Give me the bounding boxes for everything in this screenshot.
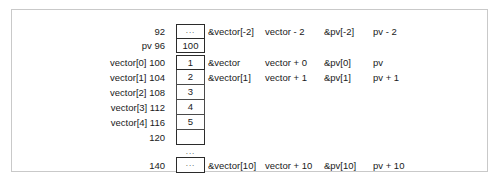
memory-cell-108: 3	[176, 85, 205, 100]
cell-value-116: 5	[188, 117, 193, 127]
expr-vector-address-140: &vector[10]	[208, 160, 256, 171]
expr-pv-address-104: &pv[1]	[324, 72, 351, 83]
cell-value-140: ...	[186, 160, 196, 168]
memory-cell-92: ...	[176, 24, 205, 39]
cell-value-112: 4	[188, 102, 193, 112]
expr-pv-pointer-92: pv - 2	[373, 26, 397, 37]
memory-cell-96: 100	[176, 38, 205, 53]
address-label-140: 140	[149, 160, 165, 171]
memory-gap-ellipsis: ...	[176, 147, 205, 156]
expr-pv-address-92: &pv[-2]	[324, 26, 354, 37]
cell-value-104: 2	[188, 72, 193, 82]
expr-vector-pointer-100: vector + 0	[265, 57, 307, 68]
expr-pv-address-100: &pv[0]	[324, 57, 351, 68]
address-label-pv-96: pv 96	[142, 40, 165, 51]
expr-vector-address-92: &vector[-2]	[208, 26, 254, 37]
expr-vector-address-100: &vector	[208, 57, 240, 68]
memory-cell-120	[176, 130, 205, 145]
address-label-vector4-116: vector[4] 116	[111, 117, 165, 128]
address-label-120: 120	[149, 132, 165, 143]
expr-vector-pointer-92: vector - 2	[265, 26, 305, 37]
address-label-vector3-112: vector[3] 112	[111, 102, 165, 113]
expr-pv-pointer-104: pv + 1	[373, 72, 399, 83]
cell-value-108: 3	[188, 87, 193, 97]
cell-value-92: ...	[186, 27, 196, 35]
address-label-vector2-108: vector[2] 108	[110, 87, 165, 98]
expr-vector-pointer-104: vector + 1	[265, 72, 307, 83]
memory-cell-112: 4	[176, 100, 205, 115]
expr-vector-address-104: &vector[1]	[208, 72, 251, 83]
cell-value-100: 1	[188, 58, 193, 68]
expr-vector-pointer-140: vector + 10	[265, 160, 312, 171]
expr-pv-address-140: &pv[10]	[324, 160, 356, 171]
expr-pv-pointer-140: pv + 10	[373, 160, 404, 171]
memory-cell-140: ...	[176, 157, 205, 173]
expr-pv-pointer-100: pv	[373, 57, 383, 68]
memory-cell-116: 5	[176, 115, 205, 130]
address-label-92: 92	[154, 26, 165, 37]
address-label-vector0-100: vector[0] 100	[110, 57, 165, 68]
cell-value-96: 100	[183, 41, 199, 51]
memory-cell-100: 1	[176, 55, 205, 70]
address-label-vector1-104: vector[1] 104	[110, 72, 165, 83]
memory-cell-104: 2	[176, 70, 205, 85]
memory-layout-figure: 92 ... &vector[-2] vector - 2 &pv[-2] pv…	[11, 9, 488, 172]
